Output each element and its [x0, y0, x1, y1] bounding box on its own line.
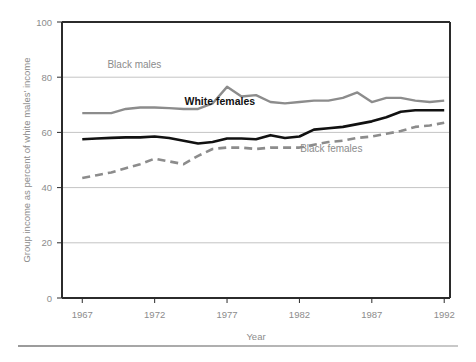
- y-tick-label-0: 0: [47, 293, 52, 304]
- x-tick-label-1977: 1977: [216, 309, 237, 320]
- y-tick-label-40: 40: [41, 182, 52, 193]
- income-ratio-line-chart: 020406080100 196719721977198219871992 Bl…: [0, 0, 476, 362]
- y-tick-label-100: 100: [36, 17, 52, 28]
- y-tick-label-80: 80: [41, 72, 52, 83]
- x-tick-label-1982: 1982: [289, 309, 310, 320]
- x-tick-label-1992: 1992: [434, 309, 455, 320]
- y-tick-label-20: 20: [41, 237, 52, 248]
- y-tick-label-60: 60: [41, 127, 52, 138]
- x-axis-title: Year: [246, 331, 265, 342]
- x-tick-label-1987: 1987: [361, 309, 382, 320]
- series-label-black-males: Black males: [107, 59, 161, 70]
- series-label-black-females: Black females: [300, 143, 362, 154]
- chart-svg: 020406080100 196719721977198219871992 Bl…: [0, 0, 476, 362]
- x-tick-label-1967: 1967: [72, 309, 93, 320]
- y-axis-title: Group income as percent of white males' …: [21, 57, 32, 262]
- series-label-white-females: White females: [185, 95, 256, 107]
- x-tick-label-1972: 1972: [144, 309, 165, 320]
- footer-divider: [18, 345, 458, 347]
- chart-background: [0, 0, 476, 362]
